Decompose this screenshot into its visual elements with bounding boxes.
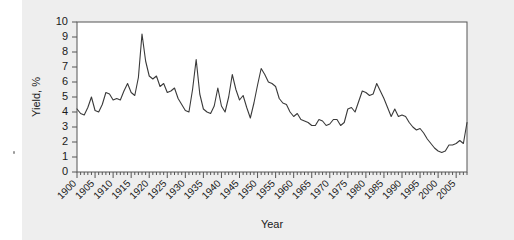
x-axis-title: Year bbox=[261, 218, 284, 230]
x-tick-label: 2005 bbox=[434, 177, 458, 201]
x-tick-label: 1950 bbox=[235, 177, 259, 201]
y-tick-label: 8 bbox=[62, 45, 68, 57]
x-tick-label: 1935 bbox=[181, 177, 205, 201]
x-tick-label: 1955 bbox=[254, 177, 278, 201]
x-tick-label: 1900 bbox=[55, 177, 79, 201]
x-tick-label: 1905 bbox=[73, 177, 97, 201]
x-tick-label: 1995 bbox=[398, 177, 422, 201]
plot-background bbox=[77, 22, 467, 172]
x-tick-label: 1920 bbox=[127, 177, 151, 201]
x-tick-label: 1910 bbox=[91, 177, 115, 201]
y-tick-label: 6 bbox=[62, 75, 68, 87]
y-tick-label: 2 bbox=[62, 135, 68, 147]
yield-line-chart: 012345678910 190019051910191519201925193… bbox=[0, 0, 514, 240]
x-tick-label: 1975 bbox=[326, 177, 350, 201]
figure-container: 012345678910 190019051910191519201925193… bbox=[0, 0, 514, 240]
x-tick-label: 1985 bbox=[362, 177, 386, 201]
x-tick-label: 1915 bbox=[109, 177, 133, 201]
x-tick-label: 1945 bbox=[217, 177, 241, 201]
y-tick-label: 1 bbox=[62, 150, 68, 162]
x-tick-label: 1990 bbox=[380, 177, 404, 201]
x-tick-label: 1930 bbox=[163, 177, 187, 201]
x-tick-label: 1925 bbox=[145, 177, 169, 201]
x-axis: 1900190519101915192019251930193519401945… bbox=[55, 172, 467, 201]
x-tick-label: 1965 bbox=[290, 177, 314, 201]
y-tick-label: 7 bbox=[62, 60, 68, 72]
y-tick-label: 3 bbox=[62, 120, 68, 132]
x-tick-label: 1940 bbox=[199, 177, 223, 201]
x-tick-label: 2000 bbox=[416, 177, 440, 201]
y-tick-label: 9 bbox=[62, 30, 68, 42]
x-tick-label: 1980 bbox=[344, 177, 368, 201]
x-tick-label: 1960 bbox=[272, 177, 296, 201]
y-axis-title: Yield, % bbox=[30, 77, 42, 117]
y-tick-label: 4 bbox=[62, 105, 68, 117]
y-axis: 012345678910 bbox=[56, 15, 77, 177]
y-tick-label: 10 bbox=[56, 15, 68, 27]
x-tick-label: 1970 bbox=[308, 177, 332, 201]
y-tick-label: 5 bbox=[62, 90, 68, 102]
y-tick-label: 0 bbox=[62, 165, 68, 177]
